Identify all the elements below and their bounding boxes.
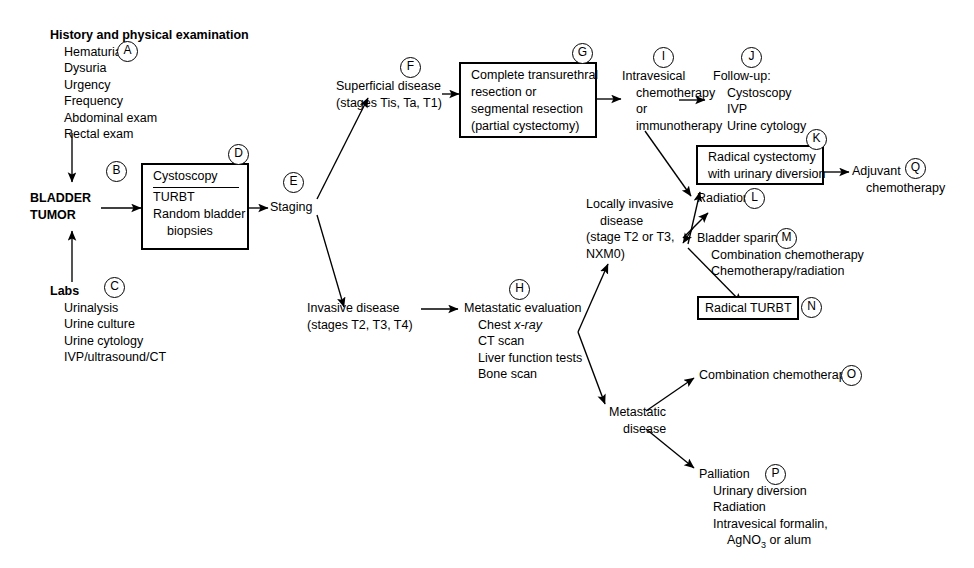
xray-text: x-ray (514, 318, 542, 332)
radical-turbt-label: Radical TURBT (699, 298, 797, 319)
invasive-disease-node: Invasive disease (stages T2, T3, T4) (307, 300, 413, 333)
cystectomy-line2: with urinary diversion (708, 166, 814, 183)
radical-cystectomy-content: Radical cystectomy with urinary diversio… (698, 147, 822, 187)
intravesical-line4: immunotherapy (622, 118, 722, 135)
metastatic-eval-heading: Metastatic evaluation (464, 300, 582, 317)
history-heading: History and physical examination (50, 27, 249, 44)
superficial-line1: Superficial disease (336, 78, 442, 95)
palliation-item-agno3: AgNO3 or alum (699, 532, 828, 553)
palliation-item: Urinary diversion (699, 483, 828, 500)
intravesical-line3: or (622, 101, 722, 118)
resection-line2: resection or (471, 84, 587, 101)
random-biopsy-line: Random bladder (153, 206, 239, 223)
adjuvant-line1: Adjuvant (852, 163, 945, 180)
marker-p: P (765, 464, 786, 485)
invasive-line1: Invasive disease (307, 300, 413, 317)
resection-box-content: Complete transurethral resection or segm… (461, 64, 595, 139)
superficial-line2: (stages Tis, Ta, T1) (336, 95, 442, 112)
metastatic-eval-item: Liver function tests (464, 350, 582, 367)
intravesical-node: Intravesical chemotherapy or immunothera… (622, 68, 722, 134)
locally-invasive-node: Locally invasive disease (stage T2 or T3… (586, 196, 674, 262)
bladder-tumor-line2: TUMOR (30, 207, 91, 224)
labs-item: IVP/ultrasound/CT (50, 349, 166, 366)
locally-invasive-line4: NXM0) (586, 246, 674, 263)
history-block: History and physical examination Hematur… (50, 27, 249, 143)
history-item: Frequency (50, 93, 249, 110)
bladder-sparing-item: Combination chemotherapy (697, 247, 864, 264)
marker-k: K (806, 129, 827, 150)
labs-item: Urine cytology (50, 333, 166, 350)
agno3-pre: AgNO (727, 533, 761, 547)
marker-n: N (801, 297, 822, 318)
palliation-heading: Palliation (699, 466, 828, 483)
combination-chemotherapy-node: Combination chemotherapy (699, 367, 852, 384)
marker-l: L (744, 188, 765, 209)
locally-invasive-line2: disease (586, 213, 674, 230)
metastatic-evaluation-block: Metastatic evaluation Chest x-ray CT sca… (464, 300, 582, 383)
marker-h: H (509, 279, 530, 300)
marker-a: A (117, 41, 138, 62)
resection-line3: segmental resection (471, 101, 587, 118)
marker-e: E (283, 172, 304, 193)
metastatic-disease-node: Metastatic disease (609, 404, 666, 437)
marker-i: I (653, 47, 674, 68)
locally-invasive-line3: (stage T2 or T3, (586, 229, 674, 246)
radical-cystectomy-box: Radical cystectomy with urinary diversio… (696, 145, 824, 185)
marker-c: C (104, 277, 125, 298)
metastatic-eval-item-chest-xray: Chest x-ray (464, 317, 582, 334)
radiation-node: Radiation (697, 190, 750, 207)
marker-m: M (776, 228, 797, 249)
superficial-disease-node: Superficial disease (stages Tis, Ta, T1) (336, 78, 442, 111)
adjuvant-line2: chemotherapy (852, 180, 945, 197)
marker-d: D (228, 144, 249, 165)
intravesical-line1: Intravesical (622, 68, 722, 85)
flowchart-canvas: History and physical examination Hematur… (0, 0, 974, 568)
metastatic-disease-line2: disease (609, 421, 666, 438)
cystectomy-line1: Radical cystectomy (708, 149, 814, 166)
history-item: Dysuria (50, 60, 249, 77)
resection-line1: Complete transurethral (471, 67, 587, 84)
cystoscopy-line: Cystoscopy (153, 168, 239, 188)
followup-item: Cystoscopy (713, 85, 806, 102)
marker-g: G (572, 43, 593, 64)
followup-item: IVP (713, 101, 806, 118)
radical-turbt-box: Radical TURBT (697, 296, 799, 320)
bladder-sparing-item: Chemotherapy/radiation (697, 263, 864, 280)
marker-j: J (741, 47, 762, 68)
metastatic-eval-item: Bone scan (464, 366, 582, 383)
labs-item: Urine culture (50, 316, 166, 333)
adjuvant-chemo-node: Adjuvant chemotherapy (852, 163, 945, 196)
agno3-post: or alum (766, 533, 811, 547)
metastatic-disease-line1: Metastatic (609, 404, 666, 421)
bladder-tumor-node: BLADDER TUMOR (30, 190, 91, 223)
resection-box: Complete transurethral resection or segm… (459, 62, 597, 138)
followup-item: Urine cytology (713, 118, 806, 135)
followup-block: Follow-up: Cystoscopy IVP Urine cytology (713, 68, 806, 134)
followup-heading: Follow-up: (713, 68, 806, 85)
biopsies-line: biopsies (153, 223, 239, 240)
history-item: Urgency (50, 77, 249, 94)
history-item: Rectal exam (50, 126, 249, 143)
chest-text: Chest (478, 318, 514, 332)
intravesical-line2: chemotherapy (622, 85, 722, 102)
marker-f: F (400, 57, 421, 78)
invasive-line2: (stages T2, T3, T4) (307, 317, 413, 334)
turbt-line: TURBT (153, 189, 239, 206)
history-item: Hematuria (50, 44, 249, 61)
locally-invasive-line1: Locally invasive (586, 196, 674, 213)
palliation-block: Palliation Urinary diversion Radiation I… (699, 466, 828, 553)
marker-o: O (841, 365, 862, 386)
staging-node: Staging (270, 199, 312, 216)
palliation-item: Radiation (699, 499, 828, 516)
resection-line4: (partial cystectomy) (471, 118, 587, 135)
cystoscopy-box: Cystoscopy TURBT Random bladder biopsies (141, 163, 249, 250)
labs-item: Urinalysis (50, 300, 166, 317)
metastatic-eval-item: CT scan (464, 333, 582, 350)
history-item: Abdominal exam (50, 110, 249, 127)
bladder-tumor-line1: BLADDER (30, 190, 91, 207)
marker-b: B (106, 161, 127, 182)
cystoscopy-box-content: Cystoscopy TURBT Random bladder biopsies (143, 165, 247, 244)
marker-q: Q (905, 158, 926, 179)
palliation-item: Intravesical formalin, (699, 516, 828, 533)
